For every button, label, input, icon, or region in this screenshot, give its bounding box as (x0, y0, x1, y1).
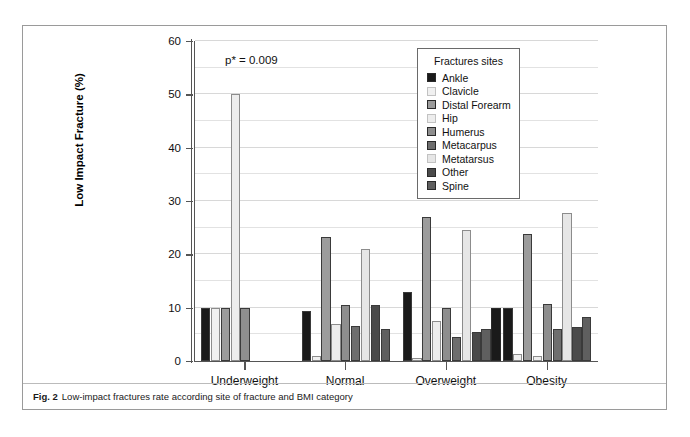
y-axis-tick-label: 20 (145, 248, 181, 260)
y-axis-tick (186, 308, 193, 309)
y-axis-tick (186, 41, 193, 42)
gridline (195, 120, 598, 121)
y-axis-tick (186, 361, 193, 362)
gridline (195, 200, 598, 201)
bar (503, 308, 512, 361)
legend-title: Fractures sites (424, 55, 513, 67)
legend-swatch-icon (427, 127, 436, 136)
y-axis-tick (186, 254, 193, 255)
bar (442, 308, 451, 361)
caption-figure-number: Fig. 2 (33, 391, 58, 402)
bar (321, 237, 330, 361)
y-axis-tick (186, 94, 193, 95)
bar (572, 327, 581, 361)
gridline (195, 173, 598, 174)
y-axis-tick-label: 0 (145, 355, 181, 367)
gridline (195, 253, 598, 254)
y-axis-tick-label: 60 (145, 35, 181, 47)
y-axis-title: Low Impact Fracture (%) (73, 40, 85, 240)
legend-swatch-icon (427, 100, 436, 109)
bar (361, 249, 370, 361)
bar (481, 329, 490, 361)
legend-item[interactable]: Distal Forearm (424, 98, 513, 112)
bar (231, 94, 240, 361)
x-axis-tick (547, 362, 548, 370)
bar (211, 308, 220, 361)
chart-plot-wrapper: Low Impact Fracture (%) 0102030405060 Un… (23, 26, 668, 411)
bar (331, 324, 340, 361)
gridline (195, 280, 598, 281)
bar (201, 308, 210, 361)
legend-item[interactable]: Spine (424, 179, 513, 193)
bar (432, 321, 441, 361)
bar (403, 292, 412, 361)
legend-item[interactable]: Hip (424, 112, 513, 126)
legend-item-label: Distal Forearm (442, 100, 511, 111)
x-axis-tick (345, 362, 346, 370)
legend: Fractures sites AnkleClavicleDistal Fore… (417, 48, 520, 199)
gridline (195, 307, 598, 308)
legend-swatch-icon (427, 73, 436, 82)
bar (341, 305, 350, 361)
legend-item[interactable]: Ankle (424, 71, 513, 85)
bar (312, 356, 321, 361)
x-axis-tick (244, 362, 245, 370)
bar (582, 317, 591, 361)
p-value-annotation: p* = 0.009 (225, 54, 278, 66)
gridline (195, 227, 598, 228)
bar (351, 326, 360, 361)
legend-entries: AnkleClavicleDistal ForearmHipHumerusMet… (424, 71, 513, 193)
legend-swatch-icon (427, 154, 436, 163)
gridline (195, 40, 598, 41)
legend-item[interactable]: Clavicle (424, 85, 513, 99)
bar (462, 230, 471, 361)
legend-item-label: Other (442, 167, 468, 178)
legend-item-label: Hip (442, 113, 458, 124)
bar (523, 234, 532, 361)
bar (533, 356, 542, 361)
bar (412, 358, 421, 361)
legend-item-label: Spine (442, 181, 469, 192)
caption-description: Low-impact fractures rate according site… (62, 391, 353, 402)
bar (472, 332, 481, 361)
bar (422, 217, 431, 361)
y-axis-tick (186, 201, 193, 202)
y-axis-tick-label: 10 (145, 302, 181, 314)
gridline (195, 333, 598, 334)
figure-caption: Fig. 2 Low-impact fractures rate accordi… (23, 383, 666, 409)
legend-item-label: Ankle (442, 73, 468, 84)
bar (543, 304, 552, 361)
bar (240, 308, 249, 361)
y-axis-tick-label: 40 (145, 142, 181, 154)
figure-container: Low Impact Fracture (%) 0102030405060 Un… (22, 25, 667, 410)
legend-item[interactable]: Humerus (424, 125, 513, 139)
y-axis-tick (186, 148, 193, 149)
y-axis-tick-label: 30 (145, 195, 181, 207)
legend-item-label: Humerus (442, 127, 485, 138)
legend-swatch-icon (427, 114, 436, 123)
bar (371, 305, 380, 361)
legend-item[interactable]: Metacarpus (424, 139, 513, 153)
legend-item[interactable]: Metatarsus (424, 152, 513, 166)
legend-swatch-icon (427, 141, 436, 150)
y-axis-tick-label: 50 (145, 88, 181, 100)
bar (491, 308, 500, 361)
bar (553, 329, 562, 361)
legend-item[interactable]: Other (424, 166, 513, 180)
bar (221, 308, 230, 361)
legend-swatch-icon (427, 168, 436, 177)
bar (562, 213, 571, 361)
bar (302, 311, 311, 361)
gridline (195, 67, 598, 68)
plot-area (194, 41, 598, 362)
legend-item-label: Clavicle (442, 86, 479, 97)
legend-swatch-icon (427, 87, 436, 96)
bar (381, 329, 390, 361)
x-axis-tick (446, 362, 447, 370)
bar (513, 354, 522, 361)
gridline (195, 147, 598, 148)
gridline (195, 93, 598, 94)
bar (452, 337, 461, 361)
legend-item-label: Metacarpus (442, 140, 497, 151)
legend-swatch-icon (427, 181, 436, 190)
